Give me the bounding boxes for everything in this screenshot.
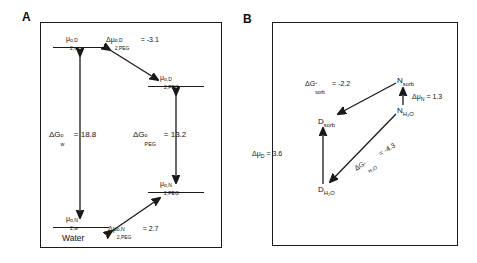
arrow-dmu-D	[110, 50, 158, 80]
figure-container: A μ o,D 2,w μ o,D 2,PEG μ o,N 2,w μ o,N …	[0, 0, 477, 263]
arrow-layer	[0, 0, 477, 263]
arrow-dmu-N	[112, 198, 160, 231]
arrow-dG-H2O	[330, 114, 396, 182]
arrow-dG-sorb	[338, 83, 396, 114]
